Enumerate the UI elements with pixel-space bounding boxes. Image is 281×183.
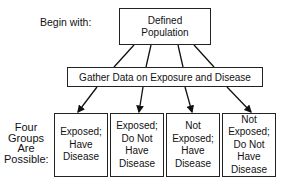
- group-line: Have: [228, 151, 270, 164]
- group-box-exposed-no-disease: Exposed; Do Not Have Disease: [110, 113, 164, 177]
- group-line: Not: [228, 114, 270, 127]
- group-line: Exposed;: [116, 120, 158, 133]
- group-line: Exposed;: [228, 126, 270, 139]
- group-line: Do Not: [228, 139, 270, 152]
- group-line: Disease: [172, 158, 214, 171]
- four-groups-label: Four Groups Are Possible:: [4, 122, 48, 164]
- group-line: Disease: [116, 158, 158, 171]
- label-line: Four: [4, 122, 48, 133]
- connector-line: [178, 45, 183, 67]
- arrow-to-group-4: [227, 87, 251, 112]
- label-line: Are: [4, 143, 48, 154]
- group-line: Disease: [60, 151, 102, 164]
- group-line: Exposed;: [60, 126, 102, 139]
- group-line: Have: [172, 145, 214, 158]
- defined-population-box: Defined Population: [119, 8, 211, 45]
- label-line: Possible:: [4, 154, 48, 165]
- gather-data-box: Gather Data on Exposure and Disease: [67, 67, 263, 87]
- connector-line: [114, 45, 134, 67]
- group-line: Have: [60, 139, 102, 152]
- group-line: Disease: [228, 164, 270, 177]
- top-box-line: Population: [141, 27, 188, 39]
- arrow-to-group-1: [78, 87, 97, 112]
- group-box-not-exposed-no-disease: Not Exposed; Do Not Have Disease: [222, 113, 276, 177]
- group-box-not-exposed-have-disease: Not Exposed; Have Disease: [166, 113, 220, 177]
- connector-line: [194, 45, 214, 67]
- group-line: Exposed;: [172, 133, 214, 146]
- group-line: Do Not: [116, 133, 158, 146]
- begin-with-label: Begin with:: [40, 17, 91, 28]
- group-line: Have: [116, 145, 158, 158]
- arrow-to-group-2: [139, 87, 143, 112]
- group-box-exposed-have-disease: Exposed; Have Disease: [54, 113, 108, 177]
- connector-line: [146, 45, 151, 67]
- top-box-line: Defined: [141, 15, 188, 27]
- arrow-to-group-3: [185, 87, 192, 112]
- group-line: Not: [172, 120, 214, 133]
